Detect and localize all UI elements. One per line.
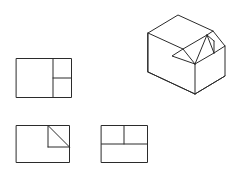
technical-drawing-canvas <box>0 0 239 185</box>
view-isometric <box>148 15 225 94</box>
isometric-body-fill <box>148 15 225 94</box>
top-view-outline <box>17 126 70 163</box>
view-front <box>17 59 72 98</box>
view-side <box>102 126 148 163</box>
drawing-sheet: Orthographic Projection with Isometric P… <box>0 0 239 185</box>
view-top <box>17 126 70 163</box>
top-view-notch-diagonal <box>48 126 70 148</box>
